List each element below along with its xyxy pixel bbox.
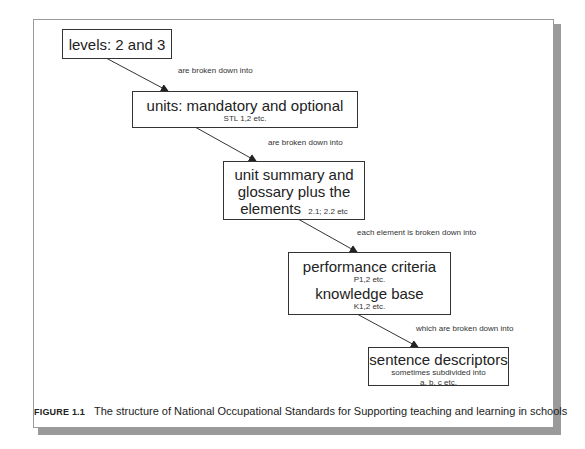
node-summary-elements: elements [240, 200, 301, 217]
node-units: units: mandatory and optional STL 1,2 et… [132, 91, 358, 128]
node-summary-line2: glossary plus the [224, 183, 364, 200]
node-sentence: sentence descriptors sometimes subdivide… [368, 347, 509, 386]
figure-caption: FIGURE 1.1The structure of National Occu… [34, 405, 567, 417]
edge-label-3: each element is broken down into [357, 228, 476, 237]
node-performance-sub: P1,2 etc. [289, 275, 450, 285]
edge-label-1: are broken down into [178, 66, 253, 75]
node-performance: performance criteria P1,2 etc. knowledge… [288, 252, 451, 315]
node-sentence-sub: sometimes subdivided into [369, 368, 508, 378]
arrow-units-to-summary [195, 127, 256, 161]
node-unit-summary: unit summary and glossary plus the eleme… [223, 161, 365, 220]
figure-label: FIGURE 1.1 [34, 407, 85, 417]
node-summary-line3: elements 2.1; 2.2 etc [224, 200, 364, 217]
node-sentence-title: sentence descriptors [369, 351, 508, 368]
node-units-sub: STL 1,2 etc. [133, 114, 357, 124]
edge-label-4: which are broken down into [416, 324, 513, 333]
arrow-performance-to-sentence [357, 314, 418, 347]
node-knowledge-title: knowledge base [289, 285, 450, 302]
node-summary-line1: unit summary and [224, 166, 364, 183]
arrow-summary-to-performance [298, 219, 357, 252]
node-performance-title: performance criteria [289, 258, 450, 275]
node-knowledge-sub: K1,2 etc. [289, 302, 450, 312]
node-levels: levels: 2 and 3 [62, 29, 172, 59]
node-sentence-sub2: a, b, c etc. [369, 378, 508, 388]
caption-text: The structure of National Occupational S… [94, 405, 567, 417]
node-levels-title: levels: 2 and 3 [63, 36, 171, 53]
node-units-title: units: mandatory and optional [133, 97, 357, 114]
edge-label-2: are broken down into [268, 138, 343, 147]
arrow-levels-to-units [106, 58, 168, 91]
node-summary-suffix: 2.1; 2.2 etc [308, 207, 348, 216]
